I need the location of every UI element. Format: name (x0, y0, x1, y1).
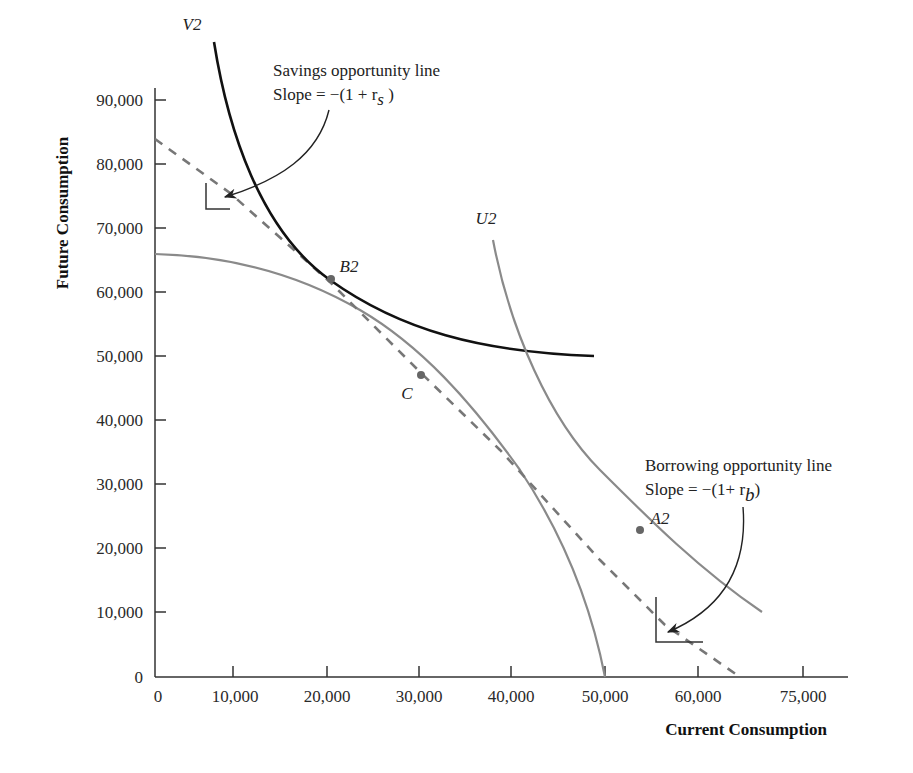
u2-label: U2 (476, 209, 497, 228)
opportunity-line-dashed (155, 139, 740, 677)
x-tick-labels: 0 10,000 20,000 30,000 40,000 50,000 60,… (154, 687, 827, 706)
a2-label: A2 (650, 509, 670, 528)
point-c-marker (417, 371, 425, 379)
borrowing-slope-triangle (656, 597, 703, 642)
y-tick-label: 90,000 (96, 91, 143, 110)
x-tick-label: 20,000 (304, 687, 351, 706)
x-tick-label: 30,000 (396, 687, 443, 706)
y-tick-label: 70,000 (96, 219, 143, 238)
borrowing-annotation: Borrowing opportunity line Slope = −(1+ … (645, 456, 832, 642)
y-tick-label: 50,000 (96, 347, 143, 366)
y-tick-label: 0 (135, 668, 144, 687)
x-tick-label: 0 (154, 687, 163, 706)
borrowing-slope-text: Slope = −(1+ rb) (645, 480, 760, 505)
point-b2-marker (327, 275, 335, 283)
v2-indifference-curve (214, 42, 594, 356)
savings-annotation: Savings opportunity line Slope = −(1 + r… (206, 61, 440, 209)
y-tick-label: 60,000 (96, 283, 143, 302)
y-axis-title: Future Consumption (53, 136, 72, 289)
y-tick-labels: 0 10,000 20,000 30,000 40,000 50,000 60,… (96, 91, 143, 687)
x-ticks (233, 666, 803, 677)
b2-label: B2 (340, 257, 359, 276)
y-ticks (155, 100, 166, 612)
y-tick-label: 20,000 (96, 539, 143, 558)
savings-line-title: Savings opportunity line (273, 61, 440, 80)
u2-indifference-curve (493, 240, 762, 612)
savings-slope-text: Slope = −(1 + rs ) (273, 85, 394, 109)
consumption-chart: 0 10,000 20,000 30,000 40,000 50,000 60,… (0, 0, 913, 773)
production-frontier-curve (155, 254, 605, 677)
x-tick-label: 10,000 (212, 687, 259, 706)
y-tick-label: 80,000 (96, 155, 143, 174)
point-a2-marker (636, 526, 644, 534)
y-tick-label: 40,000 (96, 411, 143, 430)
borrowing-line-title: Borrowing opportunity line (645, 456, 832, 475)
x-tick-label: 50,000 (582, 687, 629, 706)
y-tick-label: 10,000 (96, 603, 143, 622)
x-tick-label: 40,000 (488, 687, 535, 706)
x-axis-title: Current Consumption (665, 720, 827, 739)
savings-arrow-icon (225, 110, 329, 197)
y-tick-label: 30,000 (96, 475, 143, 494)
x-tick-label: 60,000 (675, 687, 722, 706)
c-label: C (401, 384, 413, 403)
x-tick-label: 75,000 (780, 687, 827, 706)
v2-label: V2 (183, 15, 202, 34)
